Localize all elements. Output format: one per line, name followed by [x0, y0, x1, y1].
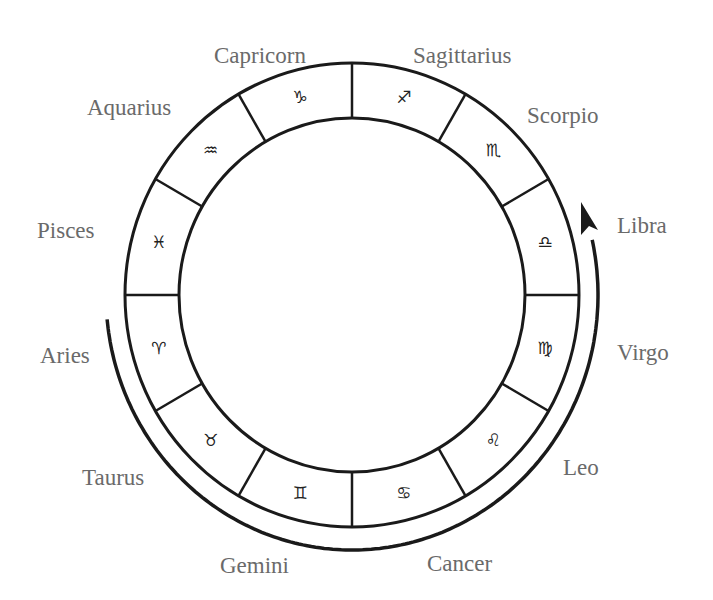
label-aries: Aries [40, 343, 90, 368]
sector-divider [439, 94, 466, 142]
label-gemini: Gemini [220, 553, 289, 578]
zodiac-ring [125, 63, 579, 527]
label-capricorn: Capricorn [214, 43, 306, 68]
inner-ring [179, 118, 525, 472]
sector-divider [155, 179, 202, 207]
label-scorpio: Scorpio [527, 103, 599, 128]
libra-glyph-icon: ♎︎ [538, 232, 553, 252]
label-leo: Leo [563, 455, 599, 480]
leo-glyph-icon: ♌︎ [486, 430, 501, 450]
taurus-glyph-icon: ♉︎ [203, 430, 218, 450]
sagittarius-glyph-icon: ♐︎ [396, 87, 411, 107]
sector-dividers [125, 63, 579, 527]
sector-divider [502, 384, 549, 412]
sector-divider [239, 94, 266, 142]
aquarius-glyph-icon: ♒︎ [203, 140, 218, 160]
label-virgo: Virgo [617, 340, 669, 365]
label-pisces: Pisces [37, 218, 95, 243]
virgo-glyph-icon: ♍︎ [538, 338, 553, 358]
pisces-glyph-icon: ♓︎ [151, 232, 166, 252]
cancer-glyph-icon: ♋︎ [396, 483, 411, 503]
label-taurus: Taurus [82, 465, 144, 490]
sign-glyphs: ♈︎♉︎♊︎♋︎♌︎♍︎♎︎♏︎♐︎♑︎♒︎♓︎ [151, 87, 553, 503]
zodiac-diagram: ♈︎♉︎♊︎♋︎♌︎♍︎♎︎♏︎♐︎♑︎♒︎♓︎ AriesTaurusGemi… [0, 0, 713, 600]
outer-ring [125, 63, 579, 527]
label-aquarius: Aquarius [87, 95, 171, 120]
sector-divider [439, 448, 466, 496]
sector-divider [502, 179, 549, 207]
sector-divider [155, 384, 202, 412]
label-sagittarius: Sagittarius [413, 43, 511, 68]
capricorn-glyph-icon: ♑︎ [293, 87, 308, 107]
sector-divider [239, 448, 266, 496]
aries-glyph-icon: ♈︎ [151, 338, 166, 358]
scorpio-glyph-icon: ♏︎ [486, 140, 501, 160]
label-cancer: Cancer [427, 551, 492, 576]
zodiac-wheel-canvas: ♈︎♉︎♊︎♋︎♌︎♍︎♎︎♏︎♐︎♑︎♒︎♓︎ AriesTaurusGemi… [0, 0, 713, 600]
gemini-glyph-icon: ♊︎ [293, 483, 308, 503]
label-libra: Libra [617, 213, 667, 238]
arrowhead-icon [581, 202, 598, 235]
